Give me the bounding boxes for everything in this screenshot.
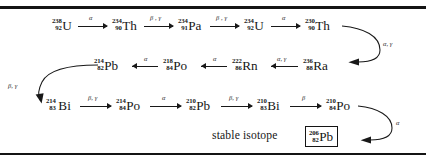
nuclide-po214-symbol: Po xyxy=(126,99,140,112)
arrow-bi214-to-po214 xyxy=(80,106,111,107)
decay-label-3: β , γ xyxy=(216,15,227,21)
decay-label-2: β , γ xyxy=(150,15,161,21)
nuclide-pb206-symbol: Pb xyxy=(319,130,333,143)
nuclide-pb206-numbers: 206 82 xyxy=(309,129,319,143)
arrow-ra236-to-rn222 xyxy=(271,66,298,67)
decay-label-13: β xyxy=(302,95,305,101)
nuclide-th234: 234 90 Th xyxy=(112,17,137,32)
decay-label-5: α, γ xyxy=(383,41,392,47)
nuclide-th234-symbol: Th xyxy=(122,19,137,32)
arrow-pb210-to-bi210 xyxy=(221,106,252,107)
top-rule xyxy=(0,6,426,9)
nuclide-u238: 238 92 U xyxy=(52,17,72,32)
nuclide-bi210-numbers: 210 83 xyxy=(257,97,267,111)
nuclide-ra236-symbol: Ra xyxy=(313,59,328,72)
nuclide-pa234: 234 91 Pa xyxy=(178,17,202,32)
stable-isotope-caption: stable isotope xyxy=(212,130,278,142)
curve-th230-to-ra236 xyxy=(340,24,404,66)
nuclide-po210-symbol: Po xyxy=(336,99,350,112)
nuclide-pb210-numbers: 210 82 xyxy=(186,97,196,111)
arrow-po218-to-pb214 xyxy=(132,66,158,67)
decay-label-14: α xyxy=(396,120,399,126)
nuclide-u234: 234 92 U xyxy=(244,17,264,32)
nuclide-bi210: 210 83 Bi xyxy=(257,97,280,112)
decay-label-12: β, γ xyxy=(229,95,238,101)
nuclide-u238-symbol: U xyxy=(62,19,72,32)
bottom-rule xyxy=(0,153,426,155)
decay-label-9: β, γ xyxy=(8,83,17,89)
arrow-rn222-to-po218 xyxy=(201,66,227,67)
arrow-bi210-to-po210 xyxy=(290,106,321,107)
arrow-u234-to-th230 xyxy=(271,26,300,27)
decay-label-7: α xyxy=(213,56,216,62)
nuclide-bi210-symbol: Bi xyxy=(267,99,280,112)
nuclide-po214: 214 84 Po xyxy=(116,97,140,112)
decay-label-11: α xyxy=(162,95,165,101)
nuclide-po210: 210 84 Po xyxy=(326,97,350,112)
nuclide-pa234-numbers: 234 91 xyxy=(178,17,188,31)
nuclide-po210-numbers: 210 84 xyxy=(326,97,336,111)
nuclide-ra236: 236 88 Ra xyxy=(303,57,328,72)
nuclide-ra236-numbers: 236 88 xyxy=(303,57,313,71)
nuclide-th230: 230 90 Th xyxy=(305,17,330,32)
nuclide-pb214-symbol: Pb xyxy=(104,59,118,72)
nuclide-pb210-symbol: Pb xyxy=(196,99,210,112)
arrow-pa234-to-u234 xyxy=(210,26,239,27)
nuclide-bi214-symbol: Bi xyxy=(58,99,71,112)
decay-label-4: α xyxy=(282,15,285,21)
nuclide-bi214-numbers: 214 83 xyxy=(46,97,56,111)
nuclide-th230-numbers: 230 90 xyxy=(305,17,315,31)
nuclide-pa234-symbol: Pa xyxy=(188,19,201,32)
arrow-th234-to-pa234 xyxy=(144,26,173,27)
nuclide-rn222: 222 86 Rn xyxy=(232,57,258,72)
nuclide-u234-symbol: U xyxy=(254,19,264,32)
curve-po210-to-pb206 xyxy=(356,104,414,146)
arrow-u238-to-th234 xyxy=(78,26,107,27)
nuclide-po218: 218 84 Po xyxy=(163,57,187,72)
nuclide-po214-numbers: 214 84 xyxy=(116,97,126,111)
nuclide-po218-numbers: 218 84 xyxy=(163,57,173,71)
decay-label-10: β, γ xyxy=(88,95,97,101)
nuclide-pb206-boxed: 206 82 Pb xyxy=(305,126,338,147)
nuclide-th230-symbol: Th xyxy=(315,19,330,32)
decay-label-6: α, γ xyxy=(277,56,286,62)
arrow-po214-to-pb210 xyxy=(150,106,181,107)
decay-label-1: α xyxy=(89,15,92,21)
nuclide-pb210: 210 82 Pb xyxy=(186,97,210,112)
nuclide-th234-numbers: 234 90 xyxy=(112,17,122,31)
nuclide-rn222-numbers: 222 86 xyxy=(232,57,242,71)
nuclide-u238-numbers: 238 92 xyxy=(52,17,62,31)
nuclide-bi214: 214 83 Bi xyxy=(46,97,71,112)
nuclide-po218-symbol: Po xyxy=(173,59,187,72)
decay-chain-figure: 238 92 U α 234 90 Th β , γ 234 91 Pa β ,… xyxy=(0,0,426,164)
nuclide-rn222-symbol: Rn xyxy=(242,59,258,72)
decay-label-8: α xyxy=(144,56,147,62)
nuclide-u234-numbers: 234 92 xyxy=(244,17,254,31)
